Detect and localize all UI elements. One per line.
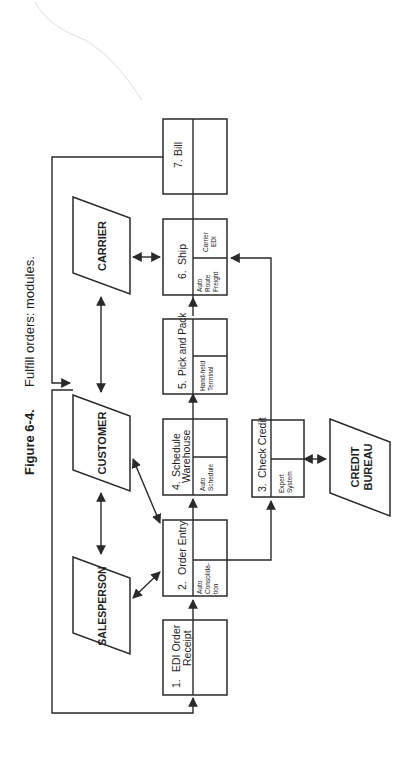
module-7-bill: 7. Bill <box>163 119 227 194</box>
entity-salesperson: SALESPERSON <box>73 557 130 654</box>
module-3-sub-1: Expert <box>278 474 286 493</box>
fulfill-orders-diagram: Figure 6-4. Fulfill orders: modules. CAR… <box>0 0 418 768</box>
credit-bureau-label-1: CREDIT <box>349 446 361 487</box>
module-5-number: 5. <box>176 380 188 389</box>
check-credit-to-ship-arrow <box>231 258 271 420</box>
module-4-sub-2: Schedule <box>207 464 214 491</box>
salesperson-order-entry-arrow <box>133 572 160 598</box>
module-3-check-credit: 3. Check Credit Expert System <box>252 417 304 497</box>
module-1-title-2: Receipt <box>181 630 193 666</box>
salesperson-label: SALESPERSON <box>96 566 108 645</box>
module-3-number: 3. <box>256 483 268 492</box>
module-2-sub-2: Consolida- <box>204 563 211 594</box>
module-6-ship: 6. Ship Auto Route Freight Carrier EDI <box>163 219 227 295</box>
figure-label: Figure 6-4. <box>22 409 37 475</box>
module-3-sub-2: System <box>286 471 294 493</box>
module-2-sub-1: Auto <box>196 580 203 594</box>
module-4-title-2: Warehouse <box>180 430 192 483</box>
carrier-label: CARRIER <box>96 221 108 271</box>
module-7-title: Bill <box>172 142 184 156</box>
module-5-pick-and-pack: 5. Pick and Pack Hand-held Terminal <box>163 312 227 394</box>
module-2-title: Order Entry <box>176 520 188 575</box>
module-4-schedule-warehouse: 4. Schedule Warehouse Auto Schedule <box>163 419 227 495</box>
figure-caption: Figure 6-4. Fulfill orders: modules. <box>22 256 37 475</box>
figure-caption-text: Fulfill orders: modules. <box>22 256 37 387</box>
order-entry-to-check-credit-arrow <box>227 501 271 560</box>
module-3-title: Check Credit <box>256 417 268 478</box>
module-6-sub-3: Freight <box>212 272 220 292</box>
module-1-number: 1. <box>170 679 182 688</box>
customer-label: CUSTOMER <box>96 412 108 475</box>
entity-carrier: CARRIER <box>73 197 130 294</box>
module-6-number: 6. <box>176 270 188 279</box>
module-6-title: Ship <box>176 244 188 265</box>
entity-customer: CUSTOMER <box>73 395 130 491</box>
scan-artifact-curve <box>35 2 142 100</box>
module-5-title: Pick and Pack <box>177 312 188 376</box>
credit-bureau-label-2: BUREAU <box>362 443 374 490</box>
module-1-edi-order-receipt: 1. EDI Order Receipt <box>163 620 227 695</box>
module-5-sub-1: Hand-held <box>199 361 206 391</box>
module-7-number: 7. <box>172 159 184 168</box>
customer-order-entry-arrow <box>133 459 160 523</box>
module-5-sub-2: Terminal <box>207 366 214 391</box>
module-6-sub-2: Route <box>204 274 211 292</box>
module-2-number: 2. <box>176 581 188 590</box>
module-2-order-entry: 2. Order Entry Auto Consolida- tion <box>163 520 227 596</box>
module-4-sub-1: Auto <box>199 477 206 491</box>
entity-credit-bureau: CREDIT BUREAU <box>330 419 390 516</box>
module-2-sub-3: tion <box>212 583 219 594</box>
module-6-sub2-1: Carrier <box>202 231 209 252</box>
module-6-sub-1: Auto <box>196 278 203 292</box>
module-6-sub2-2: EDI <box>210 236 217 247</box>
